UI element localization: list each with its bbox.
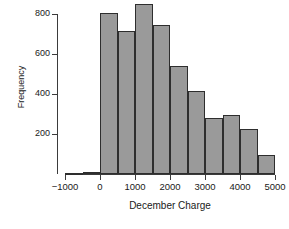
y-axis-label: Frequency xyxy=(14,0,28,174)
histogram-bar xyxy=(118,31,136,174)
x-tick-2000 xyxy=(170,175,171,180)
histogram-bar xyxy=(100,13,118,174)
x-tick-0 xyxy=(100,175,101,180)
histogram-bar xyxy=(170,66,188,174)
x-tick-label--1000: −1000 xyxy=(45,182,85,192)
plot-area: 200400600800 −1000010002000300040005000 xyxy=(0,0,289,229)
histogram-bar xyxy=(223,115,241,174)
histogram-bar xyxy=(240,129,258,174)
y-axis-line xyxy=(57,14,58,174)
x-tick-5000 xyxy=(275,175,276,180)
x-axis-label: December Charge xyxy=(55,200,285,211)
histogram-figure: 200400600800 −1000010002000300040005000 … xyxy=(0,0,289,229)
x-tick-label-4000: 4000 xyxy=(220,182,260,192)
histogram-bar xyxy=(153,25,171,174)
y-tick-800 xyxy=(52,14,57,15)
histogram-bar xyxy=(83,172,101,174)
histogram-bar xyxy=(188,91,206,174)
x-tick-label-1000: 1000 xyxy=(115,182,155,192)
x-tick-label-5000: 5000 xyxy=(255,182,289,192)
y-tick-200 xyxy=(52,134,57,135)
histogram-bar xyxy=(65,173,83,175)
x-tick-label-3000: 3000 xyxy=(185,182,225,192)
x-tick-4000 xyxy=(240,175,241,180)
x-tick-1000 xyxy=(135,175,136,180)
y-tick-600 xyxy=(52,54,57,55)
x-tick-label-2000: 2000 xyxy=(150,182,190,192)
y-tick-400 xyxy=(52,94,57,95)
histogram-bar xyxy=(205,118,223,174)
x-tick--1000 xyxy=(65,175,66,180)
histogram-bar xyxy=(135,4,153,174)
x-tick-3000 xyxy=(205,175,206,180)
histogram-bar xyxy=(258,155,276,174)
x-tick-label-0: 0 xyxy=(80,182,120,192)
